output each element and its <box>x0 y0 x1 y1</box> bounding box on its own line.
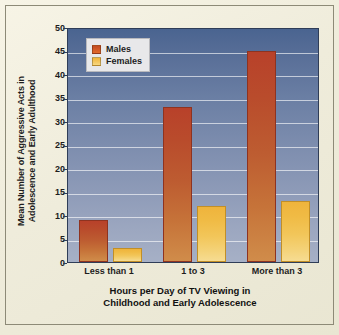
chart-legend: Males Females <box>86 38 150 72</box>
y-tick-label: 30 <box>41 118 65 127</box>
legend-label-males: Males <box>106 44 131 54</box>
y-tick-mark <box>63 263 67 264</box>
y-tick-label: 35 <box>41 94 65 103</box>
plot-area: Males Females <box>67 28 319 263</box>
bar-males-0 <box>79 220 108 262</box>
gridline <box>68 170 318 171</box>
legend-item-females: Females <box>92 55 142 67</box>
x-tick-label: Less than 1 <box>64 266 154 276</box>
legend-item-males: Males <box>92 43 142 55</box>
gridline <box>68 76 318 77</box>
bar-females-0 <box>113 248 142 262</box>
x-axis-label: Hours per Day of TV Viewing in Childhood… <box>40 285 320 309</box>
legend-label-females: Females <box>106 56 142 66</box>
chart-figure: Mean Number of Aggressive Acts in Adoles… <box>0 0 339 335</box>
y-tick-label: 15 <box>41 188 65 197</box>
gridline <box>68 123 318 124</box>
legend-swatch-females-icon <box>92 57 101 66</box>
x-tick-label: 1 to 3 <box>148 266 238 276</box>
bar-males-2 <box>247 51 276 263</box>
gridline <box>68 194 318 195</box>
gridline <box>68 147 318 148</box>
bar-males-1 <box>163 107 192 262</box>
gridline <box>68 100 318 101</box>
y-tick-label: 40 <box>41 71 65 80</box>
y-tick-label: 50 <box>41 24 65 33</box>
y-tick-label: 20 <box>41 165 65 174</box>
x-tick-label: More than 3 <box>232 266 322 276</box>
legend-swatch-males-icon <box>92 45 101 54</box>
y-tick-label: 10 <box>41 212 65 221</box>
y-tick-label: 25 <box>41 141 65 150</box>
y-tick-label: 0 <box>41 259 65 268</box>
bar-females-2 <box>281 201 310 262</box>
y-tick-label: 5 <box>41 235 65 244</box>
bar-females-1 <box>197 206 226 262</box>
y-axis-label: Mean Number of Aggressive Acts in Adoles… <box>16 46 38 256</box>
y-tick-label: 45 <box>41 47 65 56</box>
